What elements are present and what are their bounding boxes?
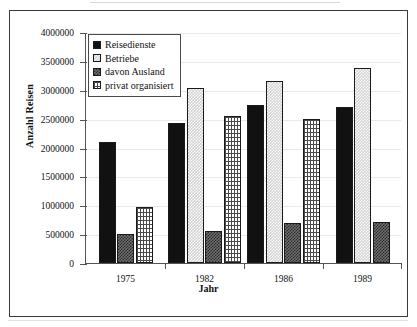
y-axis-label: 500000: [10, 230, 74, 240]
legend-item: privat organisiert: [93, 79, 173, 93]
x-axis-title: Jahr: [10, 283, 407, 294]
legend-swatch-davon-ausland: [93, 68, 101, 76]
bar-reisedienste-1982: [168, 123, 185, 263]
x-axis-tick: [401, 263, 402, 269]
legend-item: davon Ausland: [93, 65, 173, 79]
bar-davon-ausland-1989: [373, 222, 390, 263]
y-axis-tick: [80, 206, 87, 207]
y-axis-tick: [80, 120, 87, 121]
y-axis-label: 3500000: [10, 57, 74, 67]
legend-label: privat organisiert: [105, 79, 173, 93]
bar-privat-organisiert-1982: [224, 116, 241, 263]
bar-reisedienste-1975: [99, 142, 116, 263]
bar-betriebe-1989: [354, 68, 371, 263]
figure-frame: Anzahl Reisen 05000001000000150000020000…: [9, 10, 408, 317]
bar-reisedienste-1986: [247, 105, 264, 263]
x-axis-tick: [323, 263, 324, 269]
legend-swatch-reisedienste: [93, 41, 101, 49]
chart-figure: Anzahl Reisen 05000001000000150000020000…: [0, 0, 417, 327]
bar-betriebe-1986: [266, 81, 283, 263]
legend-swatch-privat-organisiert: [93, 81, 101, 89]
chart-legend: Reisedienste Betriebe davon Ausland priv…: [88, 34, 181, 97]
y-axis-label: 3000000: [10, 86, 74, 96]
legend-item: Reisedienste: [93, 38, 173, 52]
y-axis-label: 1500000: [10, 172, 74, 182]
y-axis-tick: [80, 235, 87, 236]
y-axis-tick: [80, 264, 87, 265]
legend-label: davon Ausland: [105, 65, 165, 79]
y-axis-tick: [80, 177, 87, 178]
legend-label: Reisedienste: [105, 38, 156, 52]
bar-betriebe-1982: [187, 88, 204, 263]
x-axis-tick: [244, 263, 245, 269]
y-axis-tick: [80, 62, 87, 63]
scan-artifact-top: [90, 2, 340, 3]
y-axis-label: 1000000: [10, 201, 74, 211]
bar-reisedienste-1989: [336, 107, 353, 263]
y-axis-tick: [80, 149, 87, 150]
scan-artifact-bottom: [8, 320, 408, 321]
y-axis-tick: [80, 33, 87, 34]
y-axis-label: 2000000: [10, 144, 74, 154]
bar-privat-organisiert-1986: [303, 119, 320, 263]
legend-swatch-betriebe: [93, 54, 101, 62]
bar-davon-ausland-1986: [284, 223, 301, 263]
bar-davon-ausland-1975: [117, 234, 134, 263]
y-axis-label: 0: [10, 259, 74, 269]
bar-davon-ausland-1982: [205, 231, 222, 263]
bar-privat-organisiert-1975: [136, 207, 153, 263]
y-axis-tick: [80, 91, 87, 92]
legend-label: Betriebe: [105, 52, 139, 66]
y-axis-label: 2500000: [10, 115, 74, 125]
y-axis-label: 4000000: [10, 28, 74, 38]
x-axis-tick: [165, 263, 166, 269]
legend-item: Betriebe: [93, 52, 173, 66]
